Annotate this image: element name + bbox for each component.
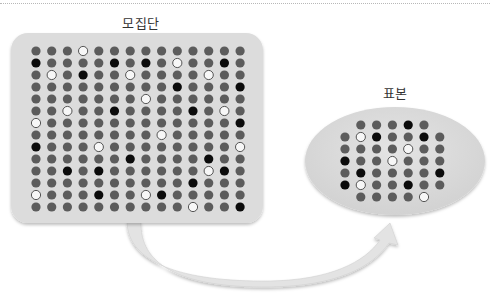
gray-dot [204, 190, 213, 199]
gray-dot [126, 178, 135, 187]
white-dot [388, 156, 397, 165]
gray-dot [47, 154, 56, 163]
gray-dot [79, 166, 88, 175]
gray-dot [47, 58, 56, 67]
gray-dot [141, 202, 150, 211]
black-dot [141, 58, 150, 67]
gray-dot [157, 118, 166, 127]
gray-dot [236, 178, 245, 187]
gray-dot [157, 46, 166, 55]
gray-dot [47, 118, 56, 127]
gray-dot [157, 94, 166, 103]
black-dot [435, 168, 444, 177]
gray-dot [126, 166, 135, 175]
gray-dot [220, 94, 229, 103]
gray-dot [220, 202, 229, 211]
gray-dot [63, 118, 72, 127]
gray-dot [31, 82, 40, 91]
gray-dot [220, 82, 229, 91]
white-dot [356, 132, 365, 141]
gray-dot [220, 190, 229, 199]
black-dot [340, 156, 349, 165]
gray-dot [204, 82, 213, 91]
gray-dot [372, 168, 381, 177]
black-dot [94, 166, 103, 175]
gray-dot [173, 142, 182, 151]
gray-dot [141, 154, 150, 163]
gray-dot [236, 166, 245, 175]
black-dot [94, 190, 103, 199]
gray-dot [141, 142, 150, 151]
gray-dot [404, 156, 413, 165]
white-dot [63, 106, 72, 115]
gray-dot [204, 178, 213, 187]
gray-dot [79, 94, 88, 103]
gray-dot [110, 166, 119, 175]
gray-dot [31, 154, 40, 163]
gray-dot [63, 130, 72, 139]
gray-dot [157, 178, 166, 187]
white-dot [236, 142, 245, 151]
gray-dot [204, 106, 213, 115]
gray-dot [157, 70, 166, 79]
gray-dot [204, 130, 213, 139]
gray-dot [157, 202, 166, 211]
gray-dot [404, 168, 413, 177]
gray-dot [220, 70, 229, 79]
gray-dot [404, 132, 413, 141]
black-dot [404, 180, 413, 189]
black-dot [419, 132, 428, 141]
white-dot [204, 166, 213, 175]
gray-dot [188, 94, 197, 103]
white-dot [79, 46, 88, 55]
gray-dot [63, 178, 72, 187]
gray-dot [79, 106, 88, 115]
gray-dot [188, 70, 197, 79]
gray-dot [188, 142, 197, 151]
gray-dot [126, 118, 135, 127]
gray-dot [236, 130, 245, 139]
gray-dot [47, 190, 56, 199]
black-dot [157, 190, 166, 199]
gray-dot [188, 118, 197, 127]
gray-dot [94, 94, 103, 103]
gray-dot [204, 142, 213, 151]
gray-dot [173, 166, 182, 175]
gray-dot [126, 94, 135, 103]
gray-dot [47, 106, 56, 115]
gray-dot [404, 192, 413, 201]
gray-dot [110, 82, 119, 91]
sampling-diagram [0, 0, 490, 293]
gray-dot [79, 202, 88, 211]
gray-dot [79, 154, 88, 163]
gray-dot [79, 190, 88, 199]
gray-dot [388, 132, 397, 141]
black-dot [356, 168, 365, 177]
gray-dot [63, 202, 72, 211]
black-dot [220, 166, 229, 175]
gray-dot [419, 156, 428, 165]
gray-dot [79, 178, 88, 187]
black-dot [404, 120, 413, 129]
gray-dot [94, 202, 103, 211]
white-dot [94, 142, 103, 151]
black-dot [31, 142, 40, 151]
white-dot [157, 130, 166, 139]
gray-dot [157, 166, 166, 175]
gray-dot [236, 106, 245, 115]
gray-dot [126, 142, 135, 151]
gray-dot [79, 82, 88, 91]
gray-dot [94, 106, 103, 115]
black-dot [110, 58, 119, 67]
gray-dot [372, 192, 381, 201]
gray-dot [47, 142, 56, 151]
gray-dot [388, 168, 397, 177]
gray-dot [204, 58, 213, 67]
gray-dot [236, 58, 245, 67]
white-dot [419, 192, 428, 201]
gray-dot [79, 130, 88, 139]
gray-dot [63, 142, 72, 151]
gray-dot [110, 142, 119, 151]
black-dot [340, 180, 349, 189]
gray-dot [94, 178, 103, 187]
